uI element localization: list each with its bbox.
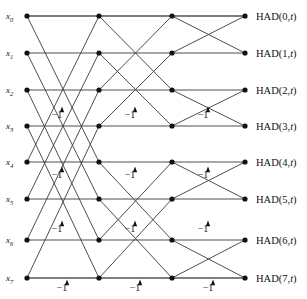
input-node xyxy=(24,237,29,242)
input-label: x7 xyxy=(5,273,14,285)
output-label: HAD(1,t) xyxy=(256,48,297,60)
weight-label: −1 xyxy=(198,223,209,234)
output-node xyxy=(242,13,247,18)
input-labels-layer: x0x1x2x3x4x5x6x7 xyxy=(5,11,14,285)
input-node xyxy=(24,159,29,164)
input-label: x2 xyxy=(5,85,14,97)
output-label: HAD(0,t) xyxy=(256,11,297,23)
weight-label: −1 xyxy=(198,169,209,180)
output-labels-layer: HAD(0,t)HAD(1,t)HAD(2,t)HAD(3,t)HAD(4,t)… xyxy=(256,11,297,285)
output-node xyxy=(242,196,247,201)
weight-label: −1 xyxy=(203,282,214,293)
output-node xyxy=(242,237,247,242)
hadamard-butterfly-diagram: x0x1x2x3x4x5x6x7 HAD(0,t)HAD(1,t)HAD(2,t… xyxy=(0,0,307,299)
output-node xyxy=(242,50,247,55)
output-label: HAD(2,t) xyxy=(256,85,297,97)
weight-label: −1 xyxy=(52,109,63,120)
output-label: HAD(3,t) xyxy=(256,121,297,133)
butterfly-node xyxy=(96,87,101,92)
butterfly-node xyxy=(169,50,174,55)
weight-label: −1 xyxy=(125,223,136,234)
input-label: x6 xyxy=(5,235,14,247)
butterfly-node xyxy=(169,237,174,242)
weight-label: −1 xyxy=(125,109,136,120)
output-label: HAD(7,t) xyxy=(256,273,297,285)
input-node xyxy=(24,13,29,18)
output-label: HAD(4,t) xyxy=(256,157,297,169)
input-label: x5 xyxy=(5,194,14,206)
butterfly-node xyxy=(169,87,174,92)
input-label: x0 xyxy=(5,11,14,23)
output-label: HAD(6,t) xyxy=(256,235,297,247)
output-label: HAD(5,t) xyxy=(256,194,297,206)
weight-label: −1 xyxy=(57,282,68,293)
butterfly-node xyxy=(96,196,101,201)
weight-label: −1 xyxy=(52,169,63,180)
output-node xyxy=(242,87,247,92)
input-label: x3 xyxy=(5,121,14,133)
butterfly-node xyxy=(96,50,101,55)
butterfly-node xyxy=(169,13,174,18)
weight-labels-layer: −1−1−1−1−1−1−1−1−1−1−1−1 xyxy=(52,109,214,293)
butterfly-node xyxy=(96,123,101,128)
weight-label: −1 xyxy=(125,169,136,180)
weight-label: −1 xyxy=(130,282,141,293)
butterfly-node xyxy=(169,275,174,280)
output-node xyxy=(242,159,247,164)
input-node xyxy=(24,196,29,201)
butterfly-node xyxy=(96,13,101,18)
edges-layer xyxy=(27,16,245,278)
output-node xyxy=(242,275,247,280)
butterfly-node xyxy=(169,159,174,164)
arrowheads-layer xyxy=(60,107,215,286)
weight-label: −1 xyxy=(52,223,63,234)
input-node xyxy=(24,50,29,55)
butterfly-node xyxy=(96,159,101,164)
input-node xyxy=(24,123,29,128)
weight-label: −1 xyxy=(198,109,209,120)
input-label: x1 xyxy=(5,48,13,60)
input-node xyxy=(24,87,29,92)
butterfly-node xyxy=(169,123,174,128)
input-label: x4 xyxy=(5,157,14,169)
input-node xyxy=(24,275,29,280)
butterfly-node xyxy=(96,275,101,280)
output-node xyxy=(242,123,247,128)
butterfly-node xyxy=(96,237,101,242)
butterfly-node xyxy=(169,196,174,201)
